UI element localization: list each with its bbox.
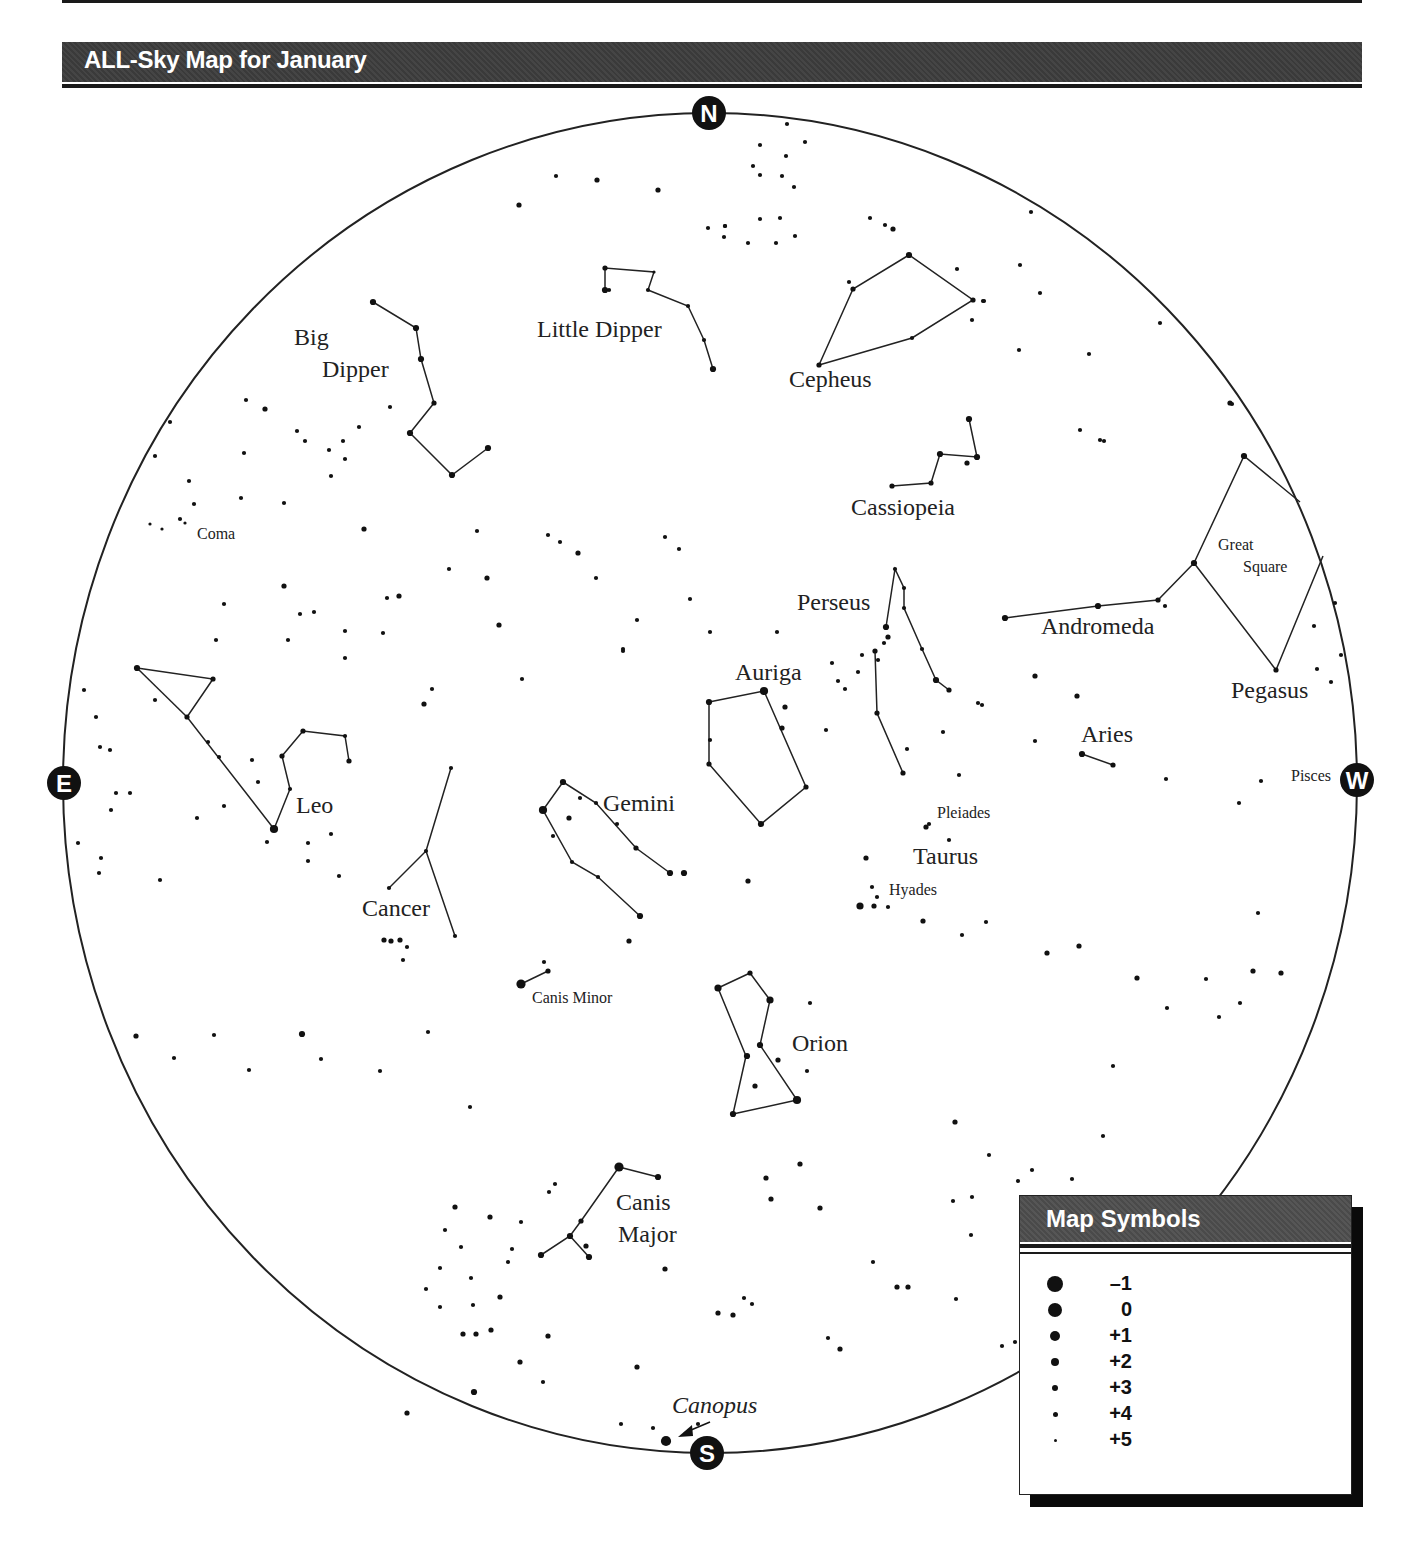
star [510,1247,514,1251]
star [966,416,972,422]
star [955,267,959,271]
star [546,533,550,537]
compass-west-label: W [1346,767,1369,794]
star [343,734,347,738]
star [244,398,248,402]
star [906,252,912,258]
constellation-label: Aries [1081,721,1133,747]
star [1030,1168,1034,1172]
star [99,856,103,860]
constellation-line [373,302,488,475]
constellation-line [541,1167,619,1255]
star [856,902,863,909]
star [843,687,847,691]
star [1333,601,1337,605]
star [1230,402,1234,406]
star [547,1190,551,1194]
star [239,496,243,500]
star [646,288,650,292]
star [768,1196,773,1201]
star [295,429,299,433]
star [758,217,762,221]
star [545,1333,550,1338]
star [583,1243,588,1248]
star [775,1057,780,1062]
star [286,638,290,642]
star [473,1331,478,1336]
constellation-lines [137,255,1323,1257]
star [655,1174,661,1180]
map-symbols-legend: Map Symbols –10+1+2+3+4+5 [1019,1195,1352,1495]
star [282,501,286,505]
star [517,1359,522,1364]
star [206,740,210,744]
magnitude-dot-icon [1047,1276,1063,1292]
star [702,338,706,342]
star [586,1254,592,1260]
star [341,439,345,443]
canopus-arrow [678,1422,710,1437]
star [337,874,341,878]
star [329,832,333,836]
constellation-line [389,851,426,888]
magnitude-dot-icon [1050,1331,1060,1341]
star [946,687,951,692]
constellation-label: Little Dipper [537,316,662,342]
star [401,958,405,962]
legend-item: +1 [1020,1324,1220,1348]
star [793,234,797,238]
magnitude-label: –1 [1092,1272,1132,1295]
star [378,1069,382,1073]
star [195,816,199,820]
constellation-label: Coma [197,525,235,542]
constellation-label: Square [1243,558,1287,576]
magnitude-dot-icon [1054,1439,1057,1442]
star [863,855,868,860]
star [488,1327,493,1332]
star [793,1096,801,1104]
star [214,638,218,642]
star [1256,911,1260,915]
star [688,597,692,601]
star [288,787,292,791]
star [594,576,598,580]
star [306,841,310,845]
star [160,527,163,530]
star [469,1276,473,1280]
star [785,122,789,126]
star [596,875,600,879]
star [343,656,347,660]
star [875,895,879,899]
star [298,612,302,616]
star [519,1220,523,1224]
star [1315,667,1319,671]
constellation-label: Orion [792,1030,848,1056]
star [1110,762,1115,767]
star [566,815,571,820]
star [970,1195,974,1199]
star [780,174,784,178]
star [1087,352,1091,356]
constellation-label: Hyades [889,881,937,899]
star [153,698,157,702]
star [447,567,451,571]
star [663,535,667,539]
star [886,905,890,909]
star [706,699,712,705]
compass-west: W [1340,763,1374,797]
star [766,996,773,1003]
star [976,701,980,705]
constellation-line [1082,754,1113,765]
star [1111,1064,1115,1068]
star [459,1245,463,1249]
constellation-line [709,691,806,824]
star [1191,560,1197,566]
star [868,216,872,220]
star [661,1436,671,1446]
star [361,526,366,531]
star [957,773,961,777]
star [1095,603,1101,609]
star [1241,453,1247,459]
star [82,688,86,692]
star [520,677,524,681]
